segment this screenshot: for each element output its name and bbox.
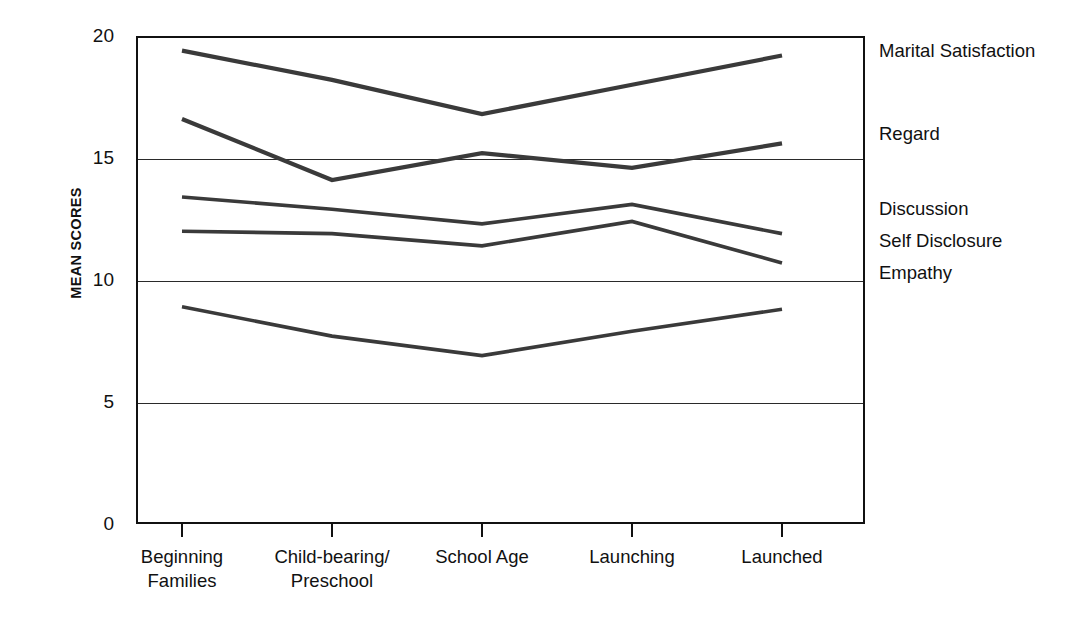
series-label-self-disclosure: Self Disclosure — [879, 232, 1002, 251]
y-tick-label: 0 — [74, 514, 114, 533]
x-tick-mark — [481, 524, 483, 537]
series-label-discussion: Discussion — [879, 200, 968, 219]
plot-area — [136, 36, 865, 524]
x-tick-mark — [781, 524, 783, 537]
series-label-regard: Regard — [879, 125, 940, 144]
x-tick-mark — [181, 524, 183, 537]
chart-figure: MEAN SCORES 05101520 Beginning FamiliesC… — [0, 0, 1085, 619]
gridline — [138, 159, 863, 160]
y-tick-label: 5 — [74, 392, 114, 411]
y-tick-label: 10 — [74, 270, 114, 289]
y-axis-tick-labels: 05101520 — [18, 0, 114, 619]
y-tick-label: 20 — [74, 26, 114, 45]
x-tick-mark — [331, 524, 333, 537]
gridline — [138, 403, 863, 404]
x-tick-label: Launched — [682, 545, 882, 569]
series-label-empathy: Empathy — [879, 264, 952, 283]
series-label-marital-satisfaction: Marital Satisfaction — [879, 42, 1035, 61]
y-tick-label: 15 — [74, 148, 114, 167]
x-tick-mark — [631, 524, 633, 537]
gridline — [138, 281, 863, 282]
